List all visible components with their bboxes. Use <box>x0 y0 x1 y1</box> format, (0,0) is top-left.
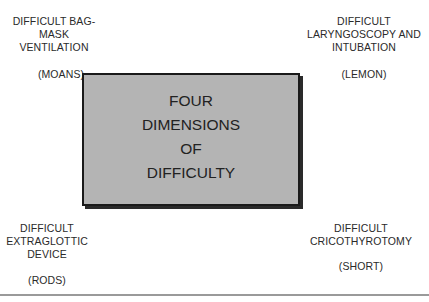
center-title-line: FOUR <box>84 89 298 113</box>
mnemonic-short: (SHORT) <box>302 260 420 273</box>
quadrant-title-line: VENTILATION <box>4 41 104 54</box>
center-title-line: OF <box>84 137 298 161</box>
quadrant-title-line: CRICOTHYROTOMY <box>302 235 420 248</box>
quadrant-laryngoscopy-intubation: DIFFICULT LARYNGOSCOPY AND INTUBATION (L… <box>300 15 428 81</box>
quadrant-title-line: DIFFICULT <box>302 222 420 235</box>
four-dimensions-box: FOUR DIMENSIONS OF DIFFICULTY <box>82 73 300 206</box>
quadrant-title-line: MASK <box>4 28 104 41</box>
quadrant-title-line: DIFFICULT <box>2 222 92 235</box>
quadrant-title-line: EXTRAGLOTTIC <box>2 235 92 248</box>
mnemonic-lemon: (LEMON) <box>300 68 428 81</box>
quadrant-title-line: DIFFICULT <box>300 15 428 28</box>
center-title: FOUR DIMENSIONS OF DIFFICULTY <box>84 89 298 185</box>
mnemonic-rods: (RODS) <box>2 274 92 287</box>
quadrant-title-line: INTUBATION <box>300 41 428 54</box>
center-title-line: DIFFICULTY <box>84 161 298 185</box>
quadrant-bag-mask-ventilation: DIFFICULT BAG- MASK VENTILATION (MOANS) <box>4 15 104 81</box>
quadrant-cricothyrotomy: DIFFICULT CRICOTHYROTOMY (SHORT) <box>302 222 420 273</box>
quadrant-extraglottic-device: DIFFICULT EXTRAGLOTTIC DEVICE (RODS) <box>2 222 92 287</box>
center-title-line: DIMENSIONS <box>84 113 298 137</box>
quadrant-title-line: LARYNGOSCOPY AND <box>300 28 428 41</box>
quadrant-title-line: DEVICE <box>2 248 92 261</box>
bottom-divider <box>0 294 429 296</box>
quadrant-title-line: DIFFICULT BAG- <box>4 15 104 28</box>
